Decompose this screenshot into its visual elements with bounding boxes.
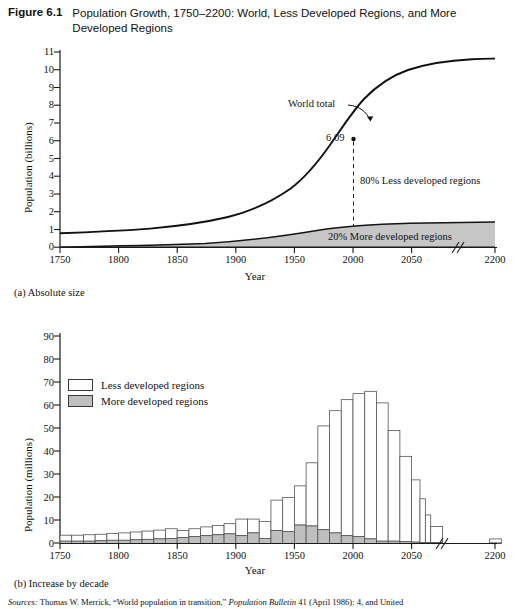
bar-more-developed [283,532,295,544]
bar-more-developed [165,538,177,543]
bar-more-developed [330,533,342,544]
bar-less-developed [224,524,236,534]
bar-more-developed [248,533,260,544]
sources-text-2: 41 (April 1986): 4, and United [296,597,403,607]
bar-less-developed [376,403,388,541]
panel-a-xtick-2000: 2000 [333,255,373,265]
bar-less-developed [341,400,353,536]
panel-a-xtick-2050: 2050 [392,255,432,265]
bar-less-developed [388,431,400,542]
legend-swatch-more-developed [68,395,93,407]
bar-more-developed [212,535,224,544]
bar-less-developed [259,521,271,538]
panel-a-caption: (a) Absolute size [14,287,85,298]
bar-more-developed [341,536,353,544]
bar-more-developed [259,538,271,543]
bar-more-developed [201,536,213,544]
legend-label-less-developed: Less developed regions [101,379,204,391]
bar-more-developed [294,525,306,543]
bar-less-developed [236,519,248,536]
bar-less-developed [294,486,306,525]
bar-more-developed [236,536,248,544]
bar-more-developed [154,539,166,544]
bar-less-developed [353,394,365,537]
bar-less-developed [119,533,131,540]
bar-less-developed [83,535,95,541]
bar-less-developed [400,456,412,541]
bar-less-developed [306,463,318,526]
panel-a-anno-less-developed: 80% Less developed regions [360,175,480,186]
bar-less-developed [201,527,213,536]
bar-less-developed [189,529,201,537]
bar-less-developed [425,515,430,543]
bar-less-developed [271,500,283,530]
legend-item-more-developed: More developed regions [68,395,208,407]
legend-label-more-developed: More developed regions [101,395,208,407]
panel-b-caption: (b) Increase by decade [14,578,109,589]
bar-less-developed [330,411,342,533]
legend-swatch-less-developed [68,379,93,391]
bar-less-developed [165,529,177,539]
bar-less-developed [420,499,425,543]
bar-more-developed [224,534,236,544]
bar-more-developed [177,538,189,544]
panel-a-xlabel: Year [215,270,295,282]
panel-a-xtick-1800: 1800 [99,255,139,265]
bar-more-developed [365,539,377,544]
bar-less-developed [365,391,377,539]
bar-less-developed [130,532,142,540]
panel-b-xtick-1900: 1900 [216,551,256,561]
panel-b-xtick-2000: 2000 [333,551,373,561]
bar-less-developed [431,526,443,542]
bar-less-developed [154,530,166,539]
sources-italic: Population Bulletin [229,597,297,607]
sources-label: Sources: [8,597,38,607]
bar-less-developed [283,497,295,531]
bar-more-developed [189,537,201,544]
panel-a-xtick-2200: 2200 [475,255,515,265]
panel-a-anno-world-total: World total [288,98,335,109]
panel-b-legend: Less developed regions More developed re… [68,379,208,411]
bar-less-developed [95,534,107,540]
panel-a-chart: Population (billions) 11 10 9 8 7 6 5 4 … [0,0,517,300]
panel-a-anno-value: 6.09 [326,132,344,143]
bar-less-developed [318,426,330,530]
bar-less-developed [177,531,189,538]
panel-b-xtick-1750: 1750 [40,551,80,561]
legend-item-less-developed: Less developed regions [68,379,208,391]
panel-a-xtick-1850: 1850 [157,255,197,265]
panel-b-xlabel: Year [215,564,295,576]
panel-b-xtick-1800: 1800 [99,551,139,561]
panel-a-anno-more-developed: 20% More developed regions [328,231,452,242]
bar-less-developed [142,531,154,539]
figure-page: Figure 6.1 Population Growth, 1750–2200:… [0,0,517,609]
bar-less-developed [248,519,260,533]
bar-more-developed [306,526,318,544]
panel-a-xtick-1750: 1750 [40,255,80,265]
panel-b-xtick-2200: 2200 [475,551,515,561]
panel-a-xtick-1900: 1900 [216,255,256,265]
bar-less-developed [412,480,420,542]
bar-less-developed [490,539,502,543]
bar-more-developed [142,539,154,543]
panel-b-xtick-2050: 2050 [392,551,432,561]
bar-less-developed [72,535,84,541]
panel-a-xtick-1950: 1950 [274,255,314,265]
bar-more-developed [271,531,283,544]
panel-b-xtick-1950: 1950 [274,551,314,561]
sources-note: Sources: Thomas W. Merrick, “World popul… [8,597,513,608]
bar-less-developed [60,535,72,541]
panel-b-xtick-1850: 1850 [157,551,197,561]
sources-text-1: Thomas W. Merrick, “World population in … [38,597,229,607]
bar-more-developed [353,537,365,544]
bar-less-developed [107,533,119,540]
bar-less-developed [212,526,224,535]
bar-more-developed [318,530,330,544]
panel-b-chart: Population (millions) 90 80 70 60 50 40 … [0,300,517,580]
